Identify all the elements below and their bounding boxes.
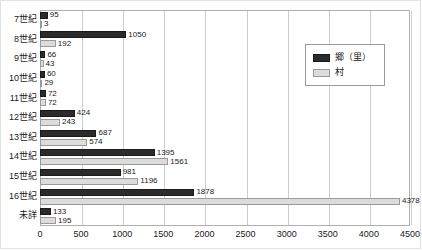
x-tick-label: 3000 bbox=[277, 228, 297, 240]
bar-group-mura: 192 bbox=[40, 40, 71, 47]
category-label: 11世紀 bbox=[0, 89, 37, 109]
bar-mura bbox=[40, 40, 56, 47]
x-tick-label: 4500 bbox=[400, 228, 420, 240]
bar-row: 9811196 bbox=[40, 167, 410, 187]
legend-label-mura: 村 bbox=[335, 68, 344, 77]
bar-row: 7272 bbox=[40, 89, 410, 109]
bar-mura bbox=[40, 99, 46, 106]
x-tick-label: 4000 bbox=[359, 228, 379, 240]
legend-item-mura: 村 bbox=[313, 65, 384, 80]
bar-go bbox=[40, 110, 75, 117]
bar-value-label: 133 bbox=[53, 208, 66, 216]
bar-row: 133195 bbox=[40, 206, 410, 226]
bar-mura bbox=[40, 119, 60, 126]
bar-value-label: 95 bbox=[50, 11, 59, 19]
x-tick-label: 1000 bbox=[112, 228, 132, 240]
bar-mura bbox=[40, 178, 138, 185]
bar-value-label: 72 bbox=[48, 90, 57, 98]
bar-value-label: 3 bbox=[44, 20, 48, 28]
bar-group-go: 687 bbox=[40, 130, 112, 137]
bar-value-label: 195 bbox=[58, 217, 71, 225]
bar-mura bbox=[40, 217, 56, 224]
bar-row: 13951561 bbox=[40, 147, 410, 167]
category-label: 10世紀 bbox=[0, 69, 37, 89]
bar-value-label: 1878 bbox=[196, 188, 214, 196]
bar-group-go: 1878 bbox=[40, 189, 214, 196]
x-tick-label: 500 bbox=[74, 228, 89, 240]
bar-group-go: 60 bbox=[40, 71, 56, 78]
bar-go bbox=[40, 90, 46, 97]
bar-value-label: 243 bbox=[62, 118, 75, 126]
legend-item-go: 郷（里） bbox=[313, 50, 384, 65]
bar-value-label: 192 bbox=[58, 40, 71, 48]
bar-group-go: 95 bbox=[40, 12, 59, 19]
category-label: 12世紀 bbox=[0, 108, 37, 128]
bar-value-label: 687 bbox=[98, 129, 111, 137]
bar-group-mura: 243 bbox=[40, 119, 75, 126]
legend-swatch-go-icon bbox=[313, 54, 330, 62]
bar-group-mura: 29 bbox=[40, 80, 53, 87]
x-tick-label: 3500 bbox=[318, 228, 338, 240]
bar-mura bbox=[40, 60, 44, 67]
bar-value-label: 1050 bbox=[128, 31, 146, 39]
x-tick-label: 0 bbox=[37, 228, 42, 240]
bar-group-mura: 195 bbox=[40, 217, 71, 224]
bar-group-mura: 4378 bbox=[40, 198, 420, 205]
bar-group-mura: 3 bbox=[40, 21, 48, 28]
bar-group-go: 424 bbox=[40, 110, 90, 117]
bar-value-label: 72 bbox=[48, 99, 57, 107]
bar-row: 18784378 bbox=[40, 187, 410, 207]
bar-group-mura: 1561 bbox=[40, 158, 188, 165]
bar-group-go: 981 bbox=[40, 169, 136, 176]
bar-group-mura: 43 bbox=[40, 60, 54, 67]
bar-row: 953 bbox=[40, 10, 410, 30]
bar-mura bbox=[40, 158, 168, 165]
bar-mura bbox=[40, 139, 87, 146]
bar-group-go: 1395 bbox=[40, 149, 174, 156]
legend-label-go: 郷（里） bbox=[335, 53, 371, 62]
category-label: 7世紀 bbox=[0, 10, 37, 30]
bar-mura bbox=[40, 21, 42, 28]
bar-group-go: 1050 bbox=[40, 31, 146, 38]
bar-go bbox=[40, 149, 155, 156]
bar-row: 424243 bbox=[40, 108, 410, 128]
category-label: 14世紀 bbox=[0, 147, 37, 167]
bar-value-label: 1395 bbox=[157, 149, 175, 157]
legend: 郷（里） 村 bbox=[305, 44, 385, 86]
bar-group-go: 72 bbox=[40, 90, 57, 97]
bar-go bbox=[40, 51, 45, 58]
bar-go bbox=[40, 71, 45, 78]
bar-value-label: 981 bbox=[123, 168, 136, 176]
legend-swatch-mura-icon bbox=[313, 69, 330, 77]
bar-row: 687574 bbox=[40, 128, 410, 148]
bar-group-go: 133 bbox=[40, 208, 66, 215]
x-tick-label: 2500 bbox=[236, 228, 256, 240]
bar-go bbox=[40, 12, 48, 19]
bar-value-label: 29 bbox=[44, 79, 53, 87]
category-label: 16世紀 bbox=[0, 187, 37, 207]
bar-go bbox=[40, 189, 194, 196]
category-label: 9世紀 bbox=[0, 49, 37, 69]
bar-value-label: 43 bbox=[46, 60, 55, 68]
bar-value-label: 4378 bbox=[402, 197, 420, 205]
bar-group-mura: 574 bbox=[40, 139, 103, 146]
category-label: 未詳 bbox=[0, 206, 37, 226]
category-label: 8世紀 bbox=[0, 30, 37, 50]
bar-go bbox=[40, 208, 51, 215]
bar-value-label: 574 bbox=[89, 138, 102, 146]
bar-go bbox=[40, 169, 121, 176]
bar-rows: 9531050192664360297272424243687574139515… bbox=[40, 10, 410, 226]
bar-group-mura: 1196 bbox=[40, 178, 158, 185]
value-axis-labels: 050010001500200025003000350040004500 bbox=[40, 228, 410, 244]
bar-mura bbox=[40, 80, 42, 87]
bar-value-label: 1561 bbox=[170, 158, 188, 166]
bar-mura bbox=[40, 198, 400, 205]
bar-go bbox=[40, 130, 96, 137]
bar-value-label: 424 bbox=[77, 109, 90, 117]
bar-value-label: 66 bbox=[47, 51, 56, 59]
category-label: 15世紀 bbox=[0, 167, 37, 187]
category-axis-labels: 7世紀8世紀9世紀10世紀11世紀12世紀13世紀14世紀15世紀16世紀未詳 bbox=[0, 10, 37, 226]
bar-chart: 7世紀8世紀9世紀10世紀11世紀12世紀13世紀14世紀15世紀16世紀未詳 … bbox=[0, 0, 422, 250]
x-tick-label: 1500 bbox=[153, 228, 173, 240]
bar-value-label: 60 bbox=[47, 70, 56, 78]
